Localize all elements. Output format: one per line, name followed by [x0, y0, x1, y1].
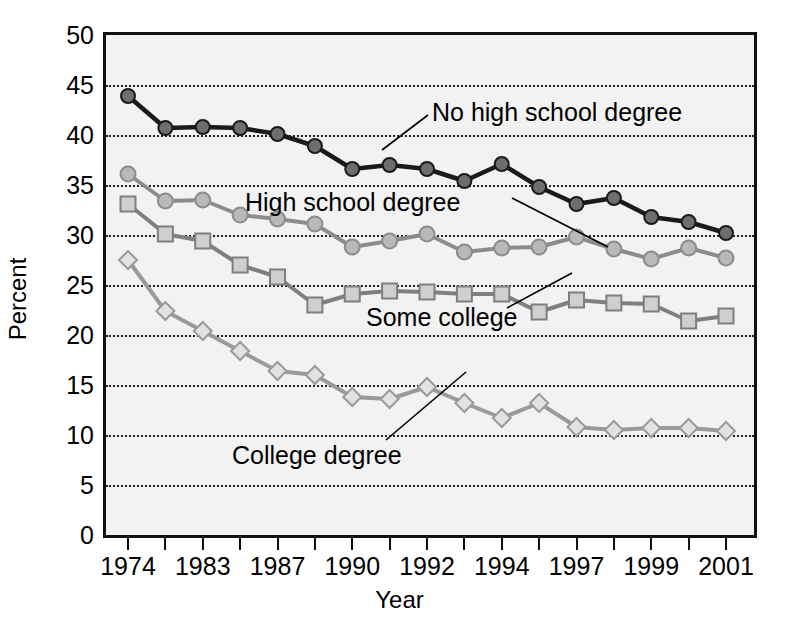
- data-point: [420, 227, 435, 242]
- data-point: [271, 127, 285, 141]
- data-point: [194, 322, 212, 340]
- data-point: [418, 378, 436, 396]
- data-point: [307, 298, 322, 313]
- data-point: [719, 226, 733, 240]
- data-point: [195, 234, 210, 249]
- data-point: [382, 234, 397, 249]
- data-point: [383, 158, 397, 172]
- x-tick-label: 1983: [175, 552, 231, 581]
- data-point: [607, 191, 621, 205]
- data-point: [381, 390, 399, 408]
- data-point: [195, 193, 210, 208]
- y-tick-label: 15: [48, 373, 94, 398]
- data-point: [681, 314, 696, 329]
- y-tick-label: 40: [48, 123, 94, 148]
- x-tick: [426, 538, 428, 550]
- data-point: [158, 121, 172, 135]
- data-point: [570, 197, 584, 211]
- data-point: [121, 197, 136, 212]
- data-point: [345, 240, 360, 255]
- x-tick: [277, 538, 279, 550]
- x-tick: [650, 538, 652, 550]
- data-point: [455, 394, 473, 412]
- data-point: [532, 305, 547, 320]
- data-point: [719, 251, 734, 266]
- y-tick-label: 0: [48, 523, 94, 548]
- data-point: [495, 157, 509, 171]
- data-point: [457, 174, 471, 188]
- data-point: [121, 167, 136, 182]
- data-point: [345, 162, 359, 176]
- data-point: [345, 287, 360, 302]
- y-tick-label: 20: [48, 323, 94, 348]
- x-tick: [314, 538, 316, 550]
- data-point: [233, 121, 247, 135]
- data-point: [121, 89, 135, 103]
- data-point: [307, 217, 322, 232]
- y-tick-label: 35: [48, 173, 94, 198]
- x-tick: [538, 538, 540, 550]
- series-annotation: No high school degree: [432, 100, 682, 125]
- data-point: [231, 342, 249, 360]
- x-tick: [164, 538, 166, 550]
- data-point: [457, 245, 472, 260]
- series-annotation: Some college: [366, 305, 517, 330]
- data-point: [606, 242, 621, 257]
- data-point: [642, 419, 660, 437]
- x-tick: [725, 538, 727, 550]
- y-tick-label: 30: [48, 223, 94, 248]
- x-tick-label: 1992: [399, 552, 455, 581]
- x-tick-label: 1997: [549, 552, 605, 581]
- data-point: [158, 227, 173, 242]
- data-point: [457, 287, 472, 302]
- x-tick-label: 2001: [698, 552, 754, 581]
- data-point: [269, 362, 287, 380]
- x-tick: [127, 538, 129, 550]
- data-point: [158, 194, 173, 209]
- x-tick: [576, 538, 578, 550]
- y-tick-label: 45: [48, 73, 94, 98]
- data-point: [717, 422, 735, 440]
- series-annotation: High school degree: [245, 190, 460, 215]
- data-point: [644, 210, 658, 224]
- y-tick-label: 5: [48, 473, 94, 498]
- x-tick: [688, 538, 690, 550]
- data-point: [644, 252, 659, 267]
- x-tick: [501, 538, 503, 550]
- x-tick: [389, 538, 391, 550]
- x-axis-title: Year: [0, 586, 799, 614]
- data-point: [343, 388, 361, 406]
- data-point: [420, 162, 434, 176]
- x-tick: [351, 538, 353, 550]
- series-annotation: College degree: [232, 443, 402, 468]
- data-point: [382, 284, 397, 299]
- y-tick-label: 50: [48, 23, 94, 48]
- data-point: [644, 297, 659, 312]
- x-tick-label: 1999: [623, 552, 679, 581]
- data-point: [493, 409, 511, 427]
- data-point: [420, 285, 435, 300]
- data-point: [270, 270, 285, 285]
- x-tick-label: 1990: [324, 552, 380, 581]
- data-point: [196, 120, 210, 134]
- data-point: [569, 293, 584, 308]
- data-point: [233, 258, 248, 273]
- data-point: [605, 421, 623, 439]
- x-tick: [463, 538, 465, 550]
- data-point: [606, 296, 621, 311]
- data-point: [494, 287, 509, 302]
- x-tick: [613, 538, 615, 550]
- x-tick: [239, 538, 241, 550]
- data-point: [682, 215, 696, 229]
- chart-page: 05101520253035404550 Percent 19741983198…: [0, 0, 799, 624]
- y-axis-title: Percent: [4, 209, 32, 389]
- data-point: [681, 241, 696, 256]
- data-point: [680, 419, 698, 437]
- data-point: [532, 240, 547, 255]
- data-point: [494, 241, 509, 256]
- data-point: [719, 309, 734, 324]
- data-point: [306, 366, 324, 384]
- y-tick-label: 10: [48, 423, 94, 448]
- x-tick: [202, 538, 204, 550]
- x-tick-label: 1987: [250, 552, 306, 581]
